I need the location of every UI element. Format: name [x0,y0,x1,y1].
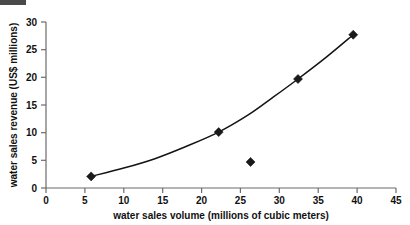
data-point-outlier [246,157,255,166]
y-tick-label-10: 10 [26,127,38,138]
x-axis-tick-labels: 0 5 10 15 20 25 30 35 40 45 [43,195,402,206]
x-axis-ticks [46,188,396,193]
x-tick-label-25: 25 [235,195,247,206]
y-tick-label-20: 20 [26,72,38,83]
x-tick-label-0: 0 [43,195,49,206]
x-tick-label-10: 10 [118,195,130,206]
x-axis-title: water sales volume (millions of cubic me… [112,210,329,221]
scatter-plot-svg: 30 25 20 15 10 5 0 0 5 10 15 20 [0,0,410,225]
x-tick-label-45: 45 [390,195,402,206]
data-point-1 [87,172,96,181]
data-point-markers [87,30,358,181]
y-tick-label-5: 5 [31,155,37,166]
x-tick-label-5: 5 [82,195,88,206]
x-tick-label-15: 15 [157,195,169,206]
y-tick-label-0: 0 [31,183,37,194]
y-axis-tick-labels: 30 25 20 15 10 5 0 [26,17,38,194]
y-tick-label-15: 15 [26,100,38,111]
y-tick-label-30: 30 [26,17,38,28]
y-axis-ticks [41,22,46,188]
x-tick-label-30: 30 [274,195,286,206]
data-point-2 [214,128,223,137]
chart-container: 30 25 20 15 10 5 0 0 5 10 15 20 [0,0,410,225]
x-tick-label-20: 20 [196,195,208,206]
x-tick-label-40: 40 [352,195,364,206]
x-tick-label-35: 35 [313,195,325,206]
trend-curve [91,35,353,177]
y-tick-label-25: 25 [26,44,38,55]
y-axis-title: water sales revenue (US$ millions) [8,23,19,189]
axis-lines [46,22,396,188]
